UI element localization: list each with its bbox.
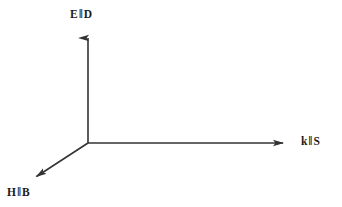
h-b-symbol-1: H (7, 186, 16, 198)
e-d-symbol-1: E (70, 8, 78, 20)
k-s-symbol-1: k (301, 135, 308, 147)
k-s-symbol-2: S (314, 135, 321, 147)
axes-diagram: E‖D k‖S H‖B (0, 0, 342, 207)
h-b-axis-line (37, 143, 89, 177)
h-b-symbol-2: B (22, 186, 30, 198)
axes-vector-graphic (0, 0, 342, 207)
e-d-axis-label: E‖D (70, 8, 92, 21)
h-b-axis-label: H‖B (7, 186, 30, 199)
e-d-symbol-2: D (84, 8, 93, 20)
k-s-axis-label: k‖S (301, 135, 320, 148)
